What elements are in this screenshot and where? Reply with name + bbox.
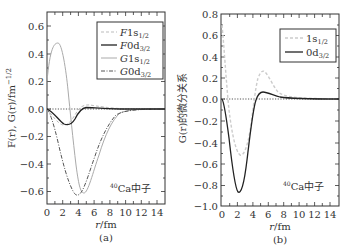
y-tick-labels-b: 0.8 0.6 0.4 0.2 0.0 −0.2 −0.4 −0.6 −0.8 …	[194, 9, 218, 212]
y-axis-label-b: G(r)的微分关系	[176, 73, 188, 144]
x-axis-label-b: r/fm	[269, 221, 291, 232]
svg-text:2: 2	[60, 207, 66, 218]
panel-caption-a: (a)	[99, 232, 113, 243]
svg-text:0.0: 0.0	[28, 104, 44, 115]
svg-text:0.4: 0.4	[28, 49, 44, 60]
svg-text:10: 10	[293, 209, 306, 220]
svg-text:−0.4: −0.4	[20, 159, 44, 170]
svg-text:6: 6	[265, 209, 271, 220]
svg-text:14: 14	[151, 207, 164, 218]
svg-text:8: 8	[107, 207, 113, 218]
svg-text:0: 0	[44, 207, 50, 218]
svg-text:−0.4: −0.4	[194, 138, 218, 149]
svg-text:0.4: 0.4	[202, 52, 218, 63]
x-tick-labels-a: 0 2 4 6 8 10 12 14	[44, 207, 164, 218]
svg-text:4: 4	[75, 207, 81, 218]
svg-text:4: 4	[250, 209, 256, 220]
x-axis-label-a: r/fm	[95, 219, 117, 230]
figure: 0.6 0.4 0.2 0.0 −0.2 −0.4 −0.6 0 2 4 6 8…	[0, 0, 346, 249]
svg-text:10: 10	[119, 207, 132, 218]
svg-text:0.6: 0.6	[202, 30, 218, 41]
svg-text:0: 0	[219, 209, 225, 220]
svg-text:−1.0: −1.0	[194, 201, 218, 212]
svg-text:0.2: 0.2	[202, 73, 218, 84]
svg-text:−0.2: −0.2	[20, 131, 44, 142]
panel-b: 0.8 0.6 0.4 0.2 0.0 −0.2 −0.4 −0.6 −0.8 …	[176, 9, 339, 246]
legend-b: 1s1/2 0d3/2	[280, 29, 336, 62]
panel-caption-b: (b)	[273, 234, 287, 245]
svg-text:0.0: 0.0	[202, 94, 218, 105]
legend-a: F1s1/2 F0d3/2 G1s1/2 G0d3/2	[97, 22, 163, 79]
svg-text:0.8: 0.8	[202, 9, 218, 20]
panel-a: 0.6 0.4 0.2 0.0 −0.2 −0.4 −0.6 0 2 4 6 8…	[5, 12, 165, 243]
svg-text:−0.6: −0.6	[20, 186, 44, 197]
y-axis-label-a: F(r), G(r)/fm−1/2	[5, 68, 17, 148]
svg-text:6: 6	[91, 207, 97, 218]
y-tick-labels-a: 0.6 0.4 0.2 0.0 −0.2 −0.4 −0.6	[20, 21, 44, 198]
svg-text:14: 14	[324, 209, 337, 220]
annotation-a: 40Ca中子	[110, 182, 151, 194]
svg-text:0.6: 0.6	[28, 21, 44, 32]
curve-0d	[222, 92, 339, 192]
x-tick-labels-b: 0 2 4 6 8 10 12 14	[219, 209, 337, 220]
annotation-b: 40Ca中子	[283, 180, 324, 192]
svg-text:−0.8: −0.8	[194, 180, 218, 191]
svg-text:8: 8	[281, 209, 287, 220]
svg-text:12: 12	[135, 207, 148, 218]
curve-F0d	[47, 108, 165, 125]
svg-text:2: 2	[234, 209, 240, 220]
svg-text:12: 12	[308, 209, 321, 220]
svg-text:−0.6: −0.6	[194, 159, 218, 170]
svg-text:−0.2: −0.2	[194, 116, 218, 127]
svg-text:0.2: 0.2	[28, 76, 44, 87]
